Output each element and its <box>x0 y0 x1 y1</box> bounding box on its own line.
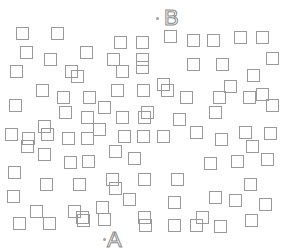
square <box>215 133 228 146</box>
square <box>8 166 21 179</box>
square <box>116 65 129 78</box>
square <box>36 84 49 97</box>
square <box>204 157 217 170</box>
square <box>244 178 257 191</box>
square <box>7 190 20 203</box>
square <box>214 220 227 233</box>
square <box>266 52 279 65</box>
square <box>138 111 151 124</box>
square <box>116 111 129 124</box>
square <box>239 126 252 139</box>
square <box>9 99 22 112</box>
square <box>10 65 23 78</box>
square <box>207 34 220 47</box>
square <box>30 205 43 218</box>
square <box>138 173 151 186</box>
square <box>266 99 279 112</box>
square <box>118 130 131 143</box>
square <box>64 156 77 169</box>
square <box>245 214 258 227</box>
square <box>231 155 244 168</box>
square <box>59 106 72 119</box>
label-b-dot <box>156 17 159 20</box>
square <box>229 194 242 207</box>
square <box>114 36 127 49</box>
square <box>190 219 203 232</box>
square <box>62 132 75 145</box>
square <box>247 69 260 82</box>
square <box>98 101 111 114</box>
square <box>20 46 33 59</box>
square <box>98 213 111 226</box>
square <box>209 106 222 119</box>
square <box>261 153 274 166</box>
square <box>80 46 93 59</box>
square <box>111 84 124 97</box>
square <box>16 27 29 40</box>
square <box>264 127 277 140</box>
square <box>128 152 141 165</box>
square <box>38 148 51 161</box>
square <box>43 217 56 230</box>
square <box>5 128 18 141</box>
square <box>171 173 184 186</box>
square <box>168 219 181 232</box>
square <box>164 30 177 43</box>
square <box>77 214 90 227</box>
square <box>136 36 149 49</box>
label-a: A <box>107 229 122 251</box>
square <box>243 91 256 104</box>
square <box>187 34 200 47</box>
square <box>139 219 152 232</box>
label-a-dot <box>103 238 106 241</box>
square <box>213 91 226 104</box>
square <box>21 140 34 153</box>
square <box>259 198 272 211</box>
square <box>109 145 122 158</box>
square <box>161 84 174 97</box>
square <box>51 27 64 40</box>
square <box>40 178 53 191</box>
diagram-canvas: B A <box>0 0 284 251</box>
square <box>137 130 150 143</box>
square <box>173 113 186 126</box>
square <box>57 91 70 104</box>
square <box>82 155 95 168</box>
label-b: B <box>164 7 179 29</box>
square <box>136 61 149 74</box>
square <box>81 132 94 145</box>
square <box>93 123 106 136</box>
square <box>41 128 54 141</box>
square <box>209 191 222 204</box>
square <box>256 31 269 44</box>
square <box>83 91 96 104</box>
square <box>246 140 259 153</box>
square <box>137 84 150 97</box>
square <box>13 217 26 230</box>
square <box>190 126 203 139</box>
square <box>216 58 229 71</box>
square <box>44 53 57 66</box>
square <box>71 70 84 83</box>
square <box>73 178 86 191</box>
square <box>234 31 247 44</box>
square <box>180 91 193 104</box>
square <box>123 193 136 206</box>
square <box>157 130 170 143</box>
square <box>168 196 181 209</box>
square <box>109 182 122 195</box>
square <box>187 58 200 71</box>
